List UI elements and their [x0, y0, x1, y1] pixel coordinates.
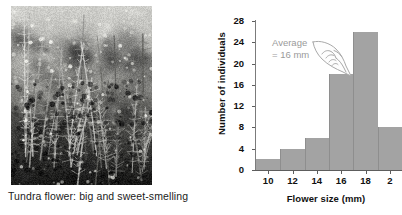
average-callout-line1: Average: [272, 37, 309, 49]
y-axis-tick-label: 8: [218, 121, 244, 132]
x-axis-tick-mark: [341, 171, 342, 174]
average-callout-line2: = 16 mm: [272, 49, 309, 61]
histogram-bar: [353, 32, 377, 170]
x-axis-tick-label: 2: [378, 175, 402, 186]
y-axis-tick-label: 4: [218, 143, 244, 154]
x-axis-tick-labels: 10121416182: [200, 175, 402, 189]
y-axis-tick-label: 24: [218, 36, 244, 47]
x-axis-tick-label: 12: [281, 175, 305, 186]
x-axis-tick-label: 16: [329, 175, 353, 186]
y-axis-tick-label: 12: [218, 100, 244, 111]
figure-root: Tundra flower: big and sweet-smelling Nu…: [0, 0, 402, 215]
x-axis-tick-mark: [268, 171, 269, 174]
y-axis-tick-label: 16: [218, 79, 244, 90]
photo-panel: Tundra flower: big and sweet-smelling: [0, 0, 200, 215]
y-axis-tick-label: 28: [218, 15, 244, 26]
x-axis-tick-mark: [366, 171, 367, 174]
x-axis-tick-label: 10: [256, 175, 280, 186]
y-axis-tick-label: 20: [218, 58, 244, 69]
x-axis-tick-mark: [317, 171, 318, 174]
photo-caption: Tundra flower: big and sweet-smelling: [8, 190, 198, 202]
x-axis-tick-label: 18: [354, 175, 378, 186]
average-callout: Average = 16 mm: [272, 37, 309, 61]
x-axis-label: Flower size (mm): [250, 193, 402, 204]
histogram-bar: [280, 149, 304, 170]
pointing-hand-icon: [310, 38, 354, 80]
histogram-bar: [378, 127, 402, 170]
histogram-bar: [305, 138, 329, 170]
y-axis-tick-label: 0: [218, 164, 244, 175]
histogram-chart: Number of individuals 0481216202428 1012…: [200, 0, 402, 215]
tundra-flower-photograph: [11, 6, 152, 185]
x-axis-tick-mark: [293, 171, 294, 174]
x-axis-tick-mark: [390, 171, 391, 174]
photo-image: [11, 6, 152, 185]
x-axis-tick-label: 14: [305, 175, 329, 186]
histogram-bar: [329, 74, 353, 170]
histogram-bar: [256, 159, 280, 170]
